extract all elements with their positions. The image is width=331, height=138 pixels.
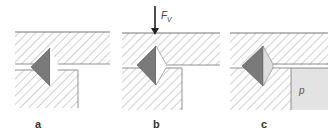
force-label: FV xyxy=(161,10,173,23)
panel-a: a xyxy=(15,32,110,130)
seal-diagram: a FV b p c xyxy=(0,0,331,138)
upper-block xyxy=(15,32,110,64)
panel-c: p c xyxy=(230,33,328,130)
upper-block xyxy=(230,33,328,65)
upper-block xyxy=(122,33,220,65)
pressure-region xyxy=(291,68,328,110)
panel-label-a: a xyxy=(35,118,42,130)
pressure-label: p xyxy=(298,85,305,96)
panel-b: FV b xyxy=(122,6,220,130)
panel-label-c: c xyxy=(261,118,267,130)
panel-label-b: b xyxy=(153,118,160,130)
